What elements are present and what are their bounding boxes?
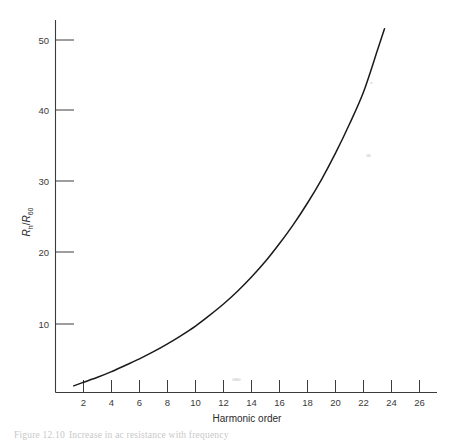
y-tick-label: 10: [38, 319, 49, 330]
y-axis-title-den-sub: 60: [27, 207, 34, 215]
x-tick-label: 10: [190, 397, 201, 408]
y-tick-marks: [56, 40, 75, 324]
x-tick-labels: 2 4 6 8 10 12 14 16 18 20 22 24 26: [81, 397, 425, 408]
chart-canvas: 50 40 30 20 10 2 4 6 8: [0, 0, 454, 445]
y-axis-title-num: R: [21, 229, 32, 236]
scan-speck: [370, 82, 373, 84]
figure-caption-label: Figure 12.10: [14, 430, 65, 440]
y-axis-title-den: R: [21, 215, 32, 222]
x-axis-title: Harmonic order: [213, 413, 283, 424]
y-tick-label: 40: [38, 105, 49, 116]
y-tick-label: 30: [38, 176, 49, 187]
x-tick-label: 12: [218, 397, 229, 408]
data-curve-rh-r60: [74, 29, 385, 386]
figure-caption: Figure 12.10Increase in ac resistance wi…: [14, 430, 444, 440]
x-tick-label: 16: [274, 397, 285, 408]
x-tick-label: 22: [358, 397, 369, 408]
svg-text:Rh/R60: Rh/R60: [21, 207, 34, 236]
x-tick-label: 8: [165, 397, 170, 408]
y-tick-labels: 50 40 30 20 10: [38, 35, 49, 330]
x-tick-label: 14: [246, 397, 257, 408]
y-axis-title: Rh/R60: [21, 207, 34, 236]
x-tick-label: 6: [137, 397, 142, 408]
x-tick-label: 26: [414, 397, 425, 408]
x-tick-label: 18: [302, 397, 313, 408]
x-tick-label: 4: [109, 397, 114, 408]
x-tick-label: 20: [330, 397, 341, 408]
x-tick-label: 2: [81, 397, 86, 408]
scan-speck: [366, 154, 371, 157]
figure-container: 50 40 30 20 10 2 4 6 8: [0, 0, 454, 445]
figure-caption-text: Increase in ac resistance with frequency: [69, 430, 229, 440]
y-tick-label: 50: [38, 35, 49, 46]
x-tick-label: 24: [386, 397, 397, 408]
y-tick-label: 20: [38, 247, 49, 258]
scan-speck: [232, 378, 241, 381]
x-tick-marks: [84, 380, 420, 393]
